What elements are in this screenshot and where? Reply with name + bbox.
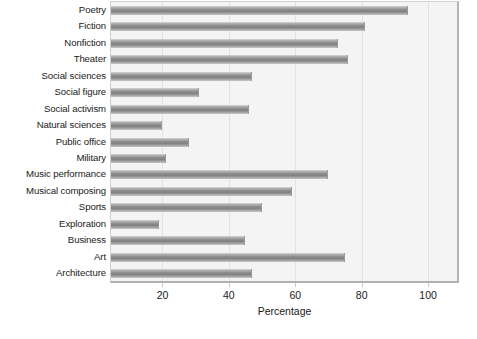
bar bbox=[111, 203, 262, 212]
bar-chart: PoetryFictionNonfictionTheaterSocial sci… bbox=[0, 0, 477, 339]
category-label: Theater bbox=[0, 54, 106, 64]
category-label: Art bbox=[0, 252, 106, 262]
x-tick-mark bbox=[295, 283, 296, 287]
category-label: Musical composing bbox=[0, 186, 106, 196]
category-label: Public office bbox=[0, 137, 106, 147]
x-tick-label: 80 bbox=[356, 289, 368, 301]
bar bbox=[111, 154, 166, 163]
bar bbox=[111, 22, 365, 31]
x-tick-label: 40 bbox=[223, 289, 235, 301]
category-label: Exploration bbox=[0, 219, 106, 229]
category-label: Military bbox=[0, 153, 106, 163]
bar bbox=[111, 253, 345, 262]
x-tick-label: 20 bbox=[157, 289, 169, 301]
category-label: Business bbox=[0, 235, 106, 245]
bar bbox=[111, 72, 252, 81]
category-label: Poetry bbox=[0, 5, 106, 15]
category-label: Nonfiction bbox=[0, 38, 106, 48]
x-tick-mark bbox=[229, 283, 230, 287]
bar bbox=[111, 269, 252, 278]
category-label: Social figure bbox=[0, 87, 106, 97]
category-label: Architecture bbox=[0, 268, 106, 278]
bar bbox=[111, 105, 249, 114]
category-label: Sports bbox=[0, 202, 106, 212]
category-label: Social sciences bbox=[0, 71, 106, 81]
bar bbox=[111, 39, 338, 48]
x-tick-mark bbox=[162, 283, 163, 287]
x-tick-label: 100 bbox=[419, 289, 437, 301]
bar bbox=[111, 121, 162, 130]
bar bbox=[111, 170, 328, 179]
x-tick-mark bbox=[362, 283, 363, 287]
bar bbox=[111, 6, 408, 15]
x-axis-title: Percentage bbox=[110, 305, 459, 317]
plot-inner bbox=[111, 2, 457, 281]
bar bbox=[111, 236, 245, 245]
category-axis: PoetryFictionNonfictionTheaterSocial sci… bbox=[0, 0, 106, 283]
bar bbox=[111, 220, 159, 229]
bar bbox=[111, 187, 292, 196]
category-label: Natural sciences bbox=[0, 120, 106, 130]
x-tick-label: 60 bbox=[289, 289, 301, 301]
x-tick-mark bbox=[428, 283, 429, 287]
bar bbox=[111, 138, 189, 147]
gridline-80 bbox=[362, 2, 363, 281]
bar bbox=[111, 88, 199, 97]
bar bbox=[111, 55, 348, 64]
plot-area bbox=[110, 1, 459, 283]
gridline-100 bbox=[428, 2, 429, 281]
category-label: Social activism bbox=[0, 104, 106, 114]
category-label: Fiction bbox=[0, 21, 106, 31]
category-label: Music performance bbox=[0, 169, 106, 179]
